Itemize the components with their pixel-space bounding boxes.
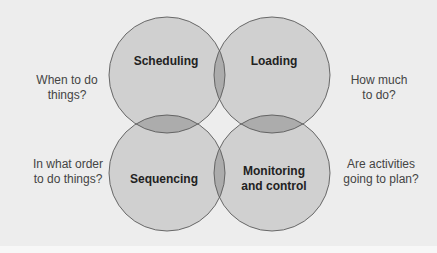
venn-diagram: [0, 0, 437, 253]
question-monitoring-line1: Are activities: [336, 157, 426, 172]
question-loading-line1: How much: [340, 73, 418, 88]
label-scheduling: Scheduling: [126, 54, 206, 69]
question-monitoring-line2: going to plan?: [336, 172, 426, 187]
label-monitoring-and-control: Monitoring and control: [234, 164, 314, 194]
question-loading-line2: to do?: [340, 88, 418, 103]
question-sequencing: In what order to do things?: [26, 157, 110, 187]
question-scheduling: When to do things?: [30, 73, 104, 103]
question-loading: How much to do?: [340, 73, 418, 103]
question-monitoring: Are activities going to plan?: [336, 157, 426, 187]
label-loading: Loading: [244, 54, 304, 69]
label-monitoring-line1: Monitoring: [234, 164, 314, 179]
question-scheduling-line1: When to do: [30, 73, 104, 88]
label-sequencing: Sequencing: [124, 172, 204, 187]
label-monitoring-line2: and control: [234, 179, 314, 194]
question-scheduling-line2: things?: [30, 88, 104, 103]
question-sequencing-line2: to do things?: [26, 172, 110, 187]
question-sequencing-line1: In what order: [26, 157, 110, 172]
